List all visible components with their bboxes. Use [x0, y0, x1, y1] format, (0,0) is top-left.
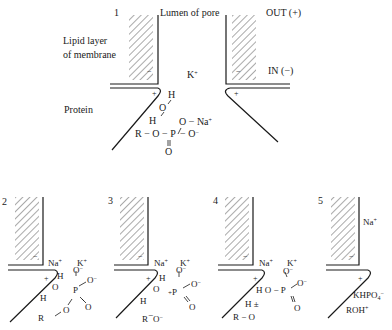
oxygen-atom: O — [63, 305, 70, 315]
charge-minus: − — [236, 68, 241, 76]
oxygen-double-bond: O — [85, 302, 92, 312]
membrane-label: of membrane — [63, 50, 116, 60]
oxygen-double-bond: O — [294, 303, 301, 313]
hydrogen-plus-minus: H ± — [245, 299, 259, 309]
hydrogen-atom: H — [140, 296, 147, 306]
panel-number-4: 4 — [213, 196, 218, 206]
in-label: IN (−) — [268, 66, 293, 76]
oxygen-minus: O− — [73, 265, 83, 275]
hydrogen-atom: H — [149, 116, 156, 126]
lumen-of-pore-label: Lumen of pore — [160, 8, 219, 18]
charge-plus: + — [44, 275, 49, 283]
oxygen-double-bond: O — [165, 147, 172, 157]
oxygen-atom: O — [153, 284, 160, 294]
sodium-ion: Na+ — [259, 258, 273, 268]
sodium-ion: Na+ — [363, 217, 377, 227]
oxygen-minus: O− — [283, 266, 293, 276]
charge-minus: − — [147, 68, 152, 76]
protein-label: Protein — [64, 105, 93, 115]
r-group: R — [38, 313, 44, 323]
phosphate-chain: R − O − P — [135, 129, 176, 139]
panel-number-5: 5 — [318, 196, 323, 206]
lipid-layer-label: Lipid layer — [63, 36, 107, 46]
out-label: OUT (+) — [266, 8, 301, 18]
kh2po4-product: KHPO4− — [353, 290, 384, 300]
phosphorus-cation: +P — [168, 287, 177, 298]
panel-number-2: 2 — [2, 197, 7, 207]
charge-plus: + — [152, 90, 157, 98]
oxygen-minus: O− — [297, 278, 307, 288]
charge-plus: + — [146, 275, 151, 283]
potassium-ion: K+ — [187, 70, 198, 80]
charge-minus: − — [138, 253, 143, 261]
oxygen-atom: O — [52, 282, 59, 292]
panel-number-3: 3 — [108, 196, 113, 206]
hydrogen-atom: H — [57, 271, 64, 281]
charge-minus: − — [33, 253, 38, 261]
hydrogen-atom: H — [40, 293, 47, 303]
charge-plus: + — [234, 90, 239, 98]
charge-plus: + — [358, 275, 363, 283]
charge-plus: + — [253, 275, 258, 283]
sodium-ion: Na+ — [48, 258, 62, 268]
hydrogen-atom: H — [159, 273, 166, 283]
oxygen-atom: O — [159, 103, 166, 113]
oxygen-minus: O− — [87, 275, 97, 285]
charge-minus: − — [349, 253, 354, 261]
phosphorus-atom: P — [73, 285, 78, 295]
sodium-ion: Na+ — [154, 258, 168, 268]
hydroxyl-phosphate: H O − P — [256, 285, 286, 295]
o-minus: − O− — [180, 129, 199, 139]
oxygen-double-bond: O — [189, 302, 196, 312]
oxygen-minus: O− — [191, 279, 201, 289]
o-minus-na: O − Na+ — [179, 117, 212, 127]
alcohol-group: R − O — [233, 312, 255, 322]
roh-product: ROH+ — [346, 305, 368, 315]
oxygen-minus: O− — [176, 265, 186, 275]
panel-number-1: 1 — [114, 8, 119, 18]
charge-minus: − — [243, 253, 248, 261]
hydrogen-atom: H — [168, 90, 175, 100]
alkoxide: R−O− — [142, 314, 163, 324]
